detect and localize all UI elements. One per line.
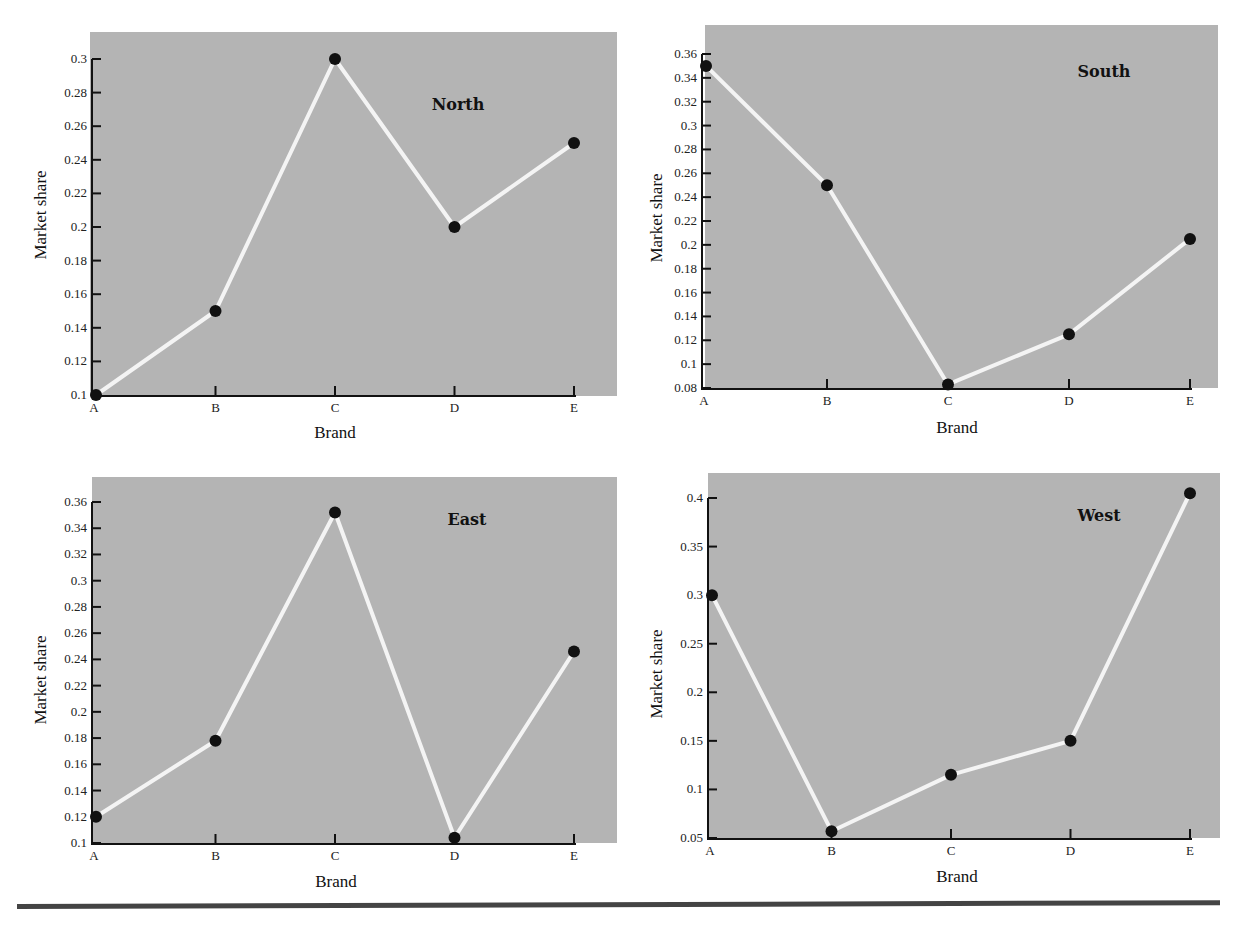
x-tick-label: E <box>1186 843 1194 858</box>
chart-svg: 0.050.10.150.20.250.30.350.4ABCDEWestBra… <box>0 0 1246 931</box>
y-tick-label: 0.15 <box>680 733 703 748</box>
y-tick-label: 0.2 <box>687 684 703 699</box>
x-tick-label: B <box>827 843 836 858</box>
x-tick-label: D <box>1066 843 1075 858</box>
x-tick-label: A <box>705 843 715 858</box>
y-tick-label: 0.35 <box>680 539 703 554</box>
x-axis-title: Brand <box>936 867 978 886</box>
data-point-marker <box>945 769 957 781</box>
y-tick-label: 0.3 <box>687 587 703 602</box>
plot-background <box>708 473 1220 838</box>
y-tick-label: 0.4 <box>687 490 704 505</box>
x-tick-label: C <box>947 843 956 858</box>
region-title: West <box>1076 506 1121 525</box>
data-point-marker <box>706 589 718 601</box>
y-tick-label: 0.05 <box>680 830 703 845</box>
y-tick-label: 0.1 <box>687 781 703 796</box>
y-tick-label: 0.25 <box>680 636 703 651</box>
y-axis-title: Market share <box>647 629 666 718</box>
data-point-marker <box>1184 487 1196 499</box>
data-point-marker <box>1065 735 1077 747</box>
data-point-marker <box>826 825 838 837</box>
